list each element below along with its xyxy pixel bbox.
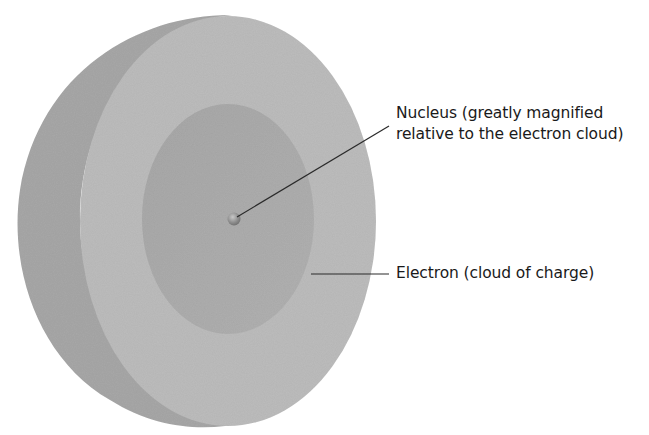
nucleus-icon [228,213,241,226]
electron-label-text: Electron (cloud of charge) [396,263,594,284]
nucleus-label: Nucleus (greatly magnified relative to t… [396,103,623,145]
atom-diagram [0,0,649,435]
nucleus-label-line2: relative to the electron cloud) [396,124,623,145]
electron-label: Electron (cloud of charge) [396,263,594,284]
nucleus-label-line1: Nucleus (greatly magnified [396,103,623,124]
